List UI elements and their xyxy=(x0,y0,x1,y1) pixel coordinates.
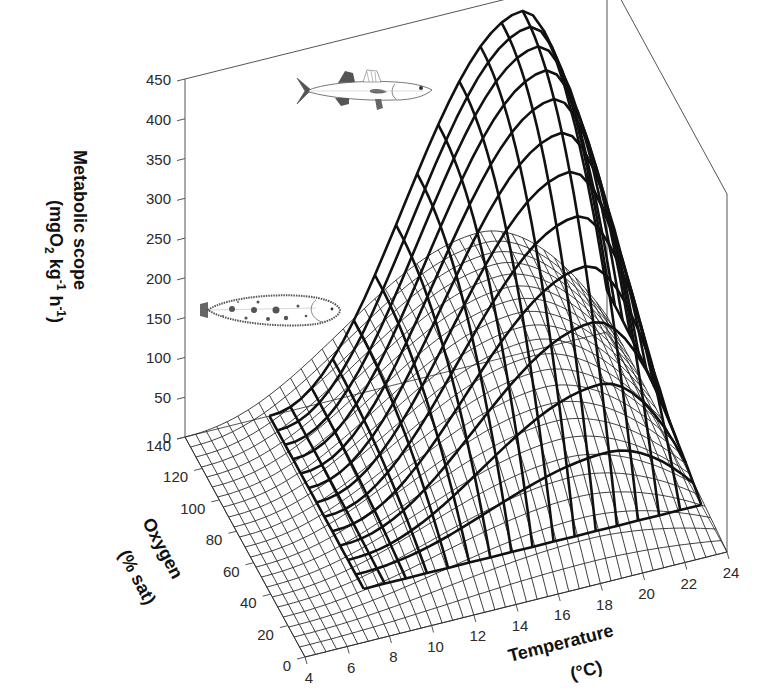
oxygen-tick-label: 80 xyxy=(206,531,223,548)
sole-illustration xyxy=(200,295,340,325)
oxygen-tick-label: 60 xyxy=(223,563,240,580)
z-tick-label: 400 xyxy=(146,111,171,128)
metabolic-scope-3d-chart: 050100150200250300350400450 020406080100… xyxy=(0,0,771,699)
z-tick-label: 250 xyxy=(146,230,171,247)
temperature-tick-label: 10 xyxy=(427,638,444,655)
z-axis-title-line2: (mgO2 kg-1 h-1) xyxy=(42,200,68,323)
oxygen-axis-title-line2: (% sat) xyxy=(114,546,159,607)
oxygen-tick-label: 40 xyxy=(240,594,257,611)
z-tick-label: 50 xyxy=(154,389,171,406)
z-tick-label: 200 xyxy=(146,270,171,287)
oxygen-tick-label: 20 xyxy=(257,626,274,643)
temperature-axis-title-line2: (°C) xyxy=(568,657,604,684)
temperature-tick-label: 22 xyxy=(680,575,697,592)
temperature-tick-label: 8 xyxy=(389,648,397,665)
temperature-tick-label: 14 xyxy=(512,617,529,634)
temperature-tick-label: 12 xyxy=(469,627,486,644)
sea-bass-illustration xyxy=(297,70,432,110)
z-tick-label: 450 xyxy=(146,71,171,88)
temperature-tick-label: 18 xyxy=(596,596,613,613)
oxygen-tick-label: 100 xyxy=(180,500,205,517)
z-tick-label: 300 xyxy=(146,190,171,207)
z-tick-label: 350 xyxy=(146,151,171,168)
temperature-tick-label: 24 xyxy=(723,564,740,581)
z-axis-title-line1: Metabolic scope xyxy=(70,150,90,290)
oxygen-tick-label: 140 xyxy=(146,437,171,454)
oxygen-tick-label: 120 xyxy=(163,468,188,485)
temperature-tick-label: 20 xyxy=(638,585,655,602)
sea-bass-surface xyxy=(269,11,701,589)
z-tick-label: 100 xyxy=(146,349,171,366)
oxygen-tick-label: 0 xyxy=(283,657,291,674)
z-tick-label: 150 xyxy=(146,310,171,327)
z-axis-title: Metabolic scope (mgO2 kg-1 h-1) xyxy=(42,150,90,323)
temperature-tick-label: 16 xyxy=(554,606,571,623)
temperature-tick-label: 4 xyxy=(305,669,313,686)
temperature-tick-label: 6 xyxy=(347,659,355,676)
z-axis: 050100150200250300350400450 xyxy=(146,71,185,446)
